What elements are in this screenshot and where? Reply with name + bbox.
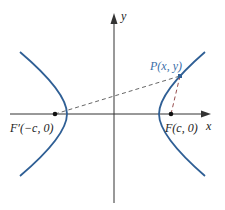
hyperbola-figure: y x F′(−c, 0) F(c, 0) P(x, y) bbox=[0, 0, 225, 210]
focus-f-label: F(c, 0) bbox=[164, 121, 198, 135]
point-p-dot bbox=[178, 74, 182, 78]
y-axis bbox=[111, 13, 118, 203]
point-p-label: P(x, y) bbox=[149, 59, 182, 73]
y-axis-arrow-icon bbox=[111, 13, 118, 24]
dashed-line-fprime-to-p bbox=[55, 76, 180, 114]
focus-f-dot bbox=[169, 112, 174, 117]
x-axis bbox=[10, 111, 211, 118]
x-axis-label: x bbox=[205, 119, 212, 133]
focus-fprime-label: F′(−c, 0) bbox=[9, 121, 53, 135]
hyperbola-svg: y x F′(−c, 0) F(c, 0) P(x, y) bbox=[0, 0, 225, 210]
focus-fprime-dot bbox=[53, 112, 58, 117]
x-axis-arrow-icon bbox=[201, 111, 211, 118]
y-axis-label: y bbox=[120, 9, 127, 23]
